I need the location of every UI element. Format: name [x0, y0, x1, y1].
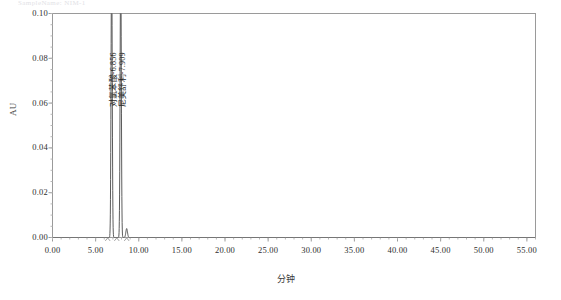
x-axis-tick-label: 25.00 [246, 245, 290, 255]
x-axis-title: 分钟 [0, 272, 561, 285]
x-axis-tick-labels: 0.005.0010.0015.0020.0025.0030.0035.0040… [0, 245, 561, 261]
x-axis-tick-label: 20.00 [203, 245, 247, 255]
x-axis-tick-label: 0.00 [31, 245, 75, 255]
x-axis-tick-label: 30.00 [289, 245, 333, 255]
x-axis-tick-label: 50.00 [462, 245, 506, 255]
x-axis-tick-label: 5.00 [74, 245, 118, 255]
peak-label: 尼美舒利-7.909 [116, 52, 127, 107]
x-axis-tick-label: 15.00 [160, 245, 204, 255]
x-axis-tick-label: 40.00 [376, 245, 420, 255]
chromatogram-chart: SampleName: NIM-1 AU 0.000.020.040.060.0… [0, 0, 561, 300]
x-axis-tick-label: 55.00 [505, 245, 549, 255]
chromatogram-trace [53, 0, 536, 238]
baseline-markers [105, 238, 129, 241]
x-axis-title-label: 分钟 [277, 274, 295, 284]
x-axis-tick-label: 35.00 [332, 245, 376, 255]
x-axis-tick-label: 10.00 [117, 245, 161, 255]
x-axis-tick-label: 45.00 [419, 245, 463, 255]
plot-frame [53, 14, 536, 238]
